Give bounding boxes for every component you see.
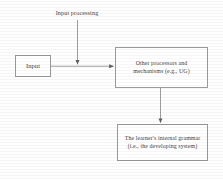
node-other-processors-line-2: mechanisms (e.g., UG) xyxy=(133,68,190,74)
node-input-label: Input xyxy=(16,62,50,71)
node-other-processors-label: Other processors and mechanisms (e.g., U… xyxy=(116,60,207,76)
diagram-canvas: Input processing Input Other processors … xyxy=(0,0,223,179)
input-processing-label: Input processing xyxy=(48,9,106,16)
node-learner-grammar-line-1: The learner's internal grammar xyxy=(125,135,201,141)
node-learner-grammar-label: The learner's internal grammar (i.e., th… xyxy=(118,135,207,151)
node-input: Input xyxy=(15,55,51,77)
node-other-processors-line-1: Other processors and xyxy=(136,60,188,66)
node-learner-grammar-line-2: (i.e., the developing system) xyxy=(128,143,198,149)
node-learner-grammar: The learner's internal grammar (i.e., th… xyxy=(117,124,208,161)
node-other-processors: Other processors and mechanisms (e.g., U… xyxy=(115,47,208,88)
